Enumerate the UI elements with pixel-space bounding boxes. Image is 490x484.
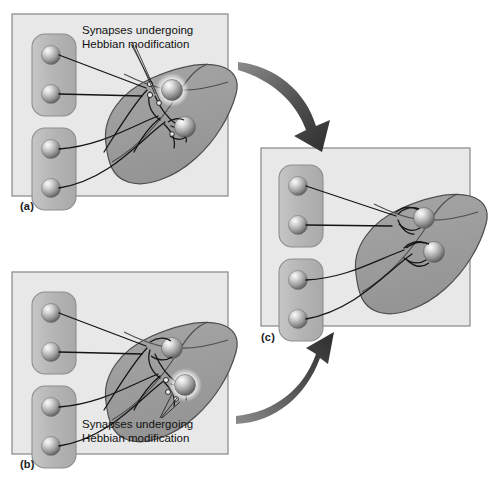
panel-b-synapse-label: Synapses undergoing Hebbian modification: [82, 418, 193, 445]
hebbian-synapse-figure: Synapses undergoing Hebbian modification…: [0, 0, 490, 484]
panel-a-synapse-label: Synapses undergoing Hebbian modification: [82, 24, 193, 51]
arrow-a-to-c: [238, 62, 330, 152]
panel-b-synapse-label-line2: Hebbian modification: [82, 432, 193, 446]
figure-canvas: [0, 0, 490, 484]
arrow-b-to-c: [236, 332, 334, 424]
panel-a-synapse-label-line2: Hebbian modification: [82, 38, 193, 52]
panel-a-synapse-label-line1: Synapses undergoing: [82, 24, 193, 38]
panel-c: [261, 148, 487, 341]
panel-a-caption: (a): [20, 200, 34, 212]
panel-b-synapse-label-line1: Synapses undergoing: [82, 418, 193, 432]
panel-b-caption: (b): [20, 458, 35, 470]
panel-c-caption: (c): [261, 331, 275, 343]
